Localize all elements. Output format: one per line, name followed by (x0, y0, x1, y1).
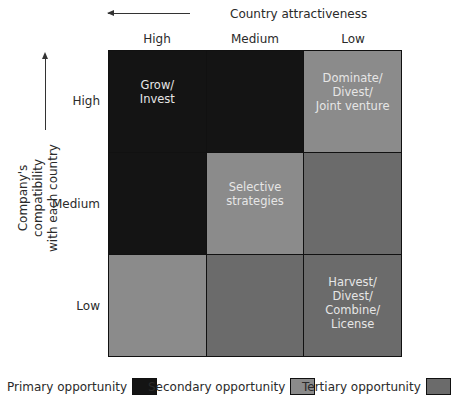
cell-label: Grow/ Invest (140, 78, 175, 106)
cell-low-medium (207, 255, 304, 356)
row-header-low: Low (0, 299, 100, 313)
column-header-low: Low (304, 32, 402, 46)
cell-medium-medium: Selective strategies (207, 153, 304, 254)
row-header-medium: Medium (0, 197, 100, 211)
cell-medium-high (109, 153, 206, 254)
matrix-grid: Grow/ Invest Dominate/ Divest/ Joint ven… (108, 50, 402, 357)
legend-label: Secondary opportunity (148, 380, 285, 394)
cell-high-medium (207, 51, 304, 152)
cell-label: Dominate/ Divest/ Joint venture (316, 71, 390, 113)
legend-label: Tertiary opportunity (302, 380, 421, 394)
cell-label: Selective strategies (226, 180, 283, 208)
cell-label: Harvest/ Divest/ Combine/ License (325, 275, 380, 331)
column-header-high: High (108, 32, 206, 46)
legend-tertiary: Tertiary opportunity (302, 378, 451, 395)
legend-label: Primary opportunity (7, 380, 127, 394)
cell-medium-low (304, 153, 401, 254)
column-header-medium: Medium (206, 32, 304, 46)
x-axis-title: Country attractiveness (230, 7, 367, 21)
cell-low-low: Harvest/ Divest/ Combine/ License (304, 255, 401, 356)
cell-low-high (109, 255, 206, 356)
cell-high-low: Dominate/ Divest/ Joint venture (304, 51, 401, 152)
cell-high-high: Grow/ Invest (109, 51, 206, 152)
legend-primary: Primary opportunity (7, 378, 157, 395)
tertiary-swatch-icon (426, 378, 451, 395)
legend-secondary: Secondary opportunity (148, 378, 315, 395)
x-axis-arrow-icon (108, 13, 190, 14)
row-header-high: High (0, 94, 100, 108)
